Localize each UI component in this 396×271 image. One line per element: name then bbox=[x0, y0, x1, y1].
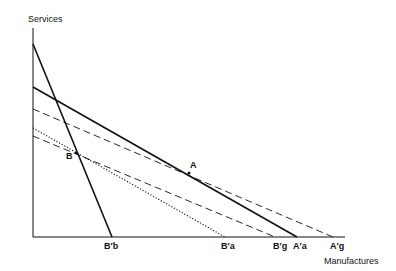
y-axis-label: Services bbox=[28, 14, 63, 24]
dotted-budget-line-b-a bbox=[33, 128, 225, 237]
intercept-a-prime-g: A′g bbox=[330, 241, 344, 251]
point-b-marker bbox=[75, 152, 78, 155]
intercept-b-prime-g: B′g bbox=[273, 241, 287, 251]
intercept-b-prime-a: B′a bbox=[221, 241, 235, 251]
intercept-a-prime-a: A′a bbox=[293, 241, 307, 251]
x-axis-label: Manufactures bbox=[324, 256, 379, 266]
point-a-marker bbox=[188, 172, 191, 175]
trade-diagram bbox=[0, 0, 396, 271]
point-a-label: A bbox=[190, 160, 197, 170]
intercept-b-prime-b: B′b bbox=[104, 241, 118, 251]
point-b-label: B bbox=[66, 151, 73, 161]
solid-budget-line-a bbox=[33, 87, 297, 237]
